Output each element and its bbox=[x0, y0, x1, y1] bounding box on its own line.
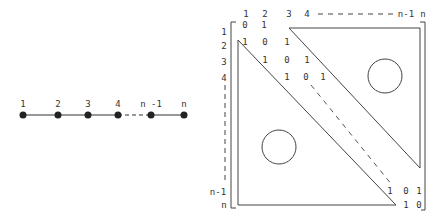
row-label: n bbox=[221, 201, 226, 210]
matrix-entry: 1 bbox=[416, 187, 421, 196]
graph-node bbox=[115, 112, 122, 119]
path-graph bbox=[20, 112, 188, 119]
matrix-entry: 1 bbox=[284, 38, 289, 47]
left-bracket bbox=[231, 22, 236, 208]
node-label: 1 bbox=[20, 100, 25, 109]
matrix-entry: 1 bbox=[242, 38, 247, 47]
matrix-entry: 0 bbox=[303, 73, 308, 82]
adjacency-matrix bbox=[225, 14, 425, 210]
node-label: 4 bbox=[115, 100, 120, 109]
graph-node bbox=[20, 112, 27, 119]
matrix-entry: 0 bbox=[403, 187, 408, 196]
upper-zero-circle bbox=[368, 59, 402, 93]
graph-node bbox=[148, 112, 155, 119]
matrix-entry: 1 bbox=[304, 56, 309, 65]
right-bracket bbox=[420, 22, 425, 210]
matrix-entry: 1 bbox=[403, 201, 408, 210]
column-label: 4 bbox=[304, 10, 309, 19]
row-label: n-1 bbox=[210, 188, 226, 197]
matrix-entry: 0 bbox=[242, 21, 247, 30]
matrix-entry: 0 bbox=[284, 56, 289, 65]
lower-zero-circle bbox=[262, 130, 296, 164]
row-label: 3 bbox=[221, 58, 226, 67]
node-label: n -1 bbox=[140, 100, 162, 109]
column-label: 1 bbox=[243, 10, 248, 19]
matrix-entry: 1 bbox=[320, 73, 325, 82]
row-label: 2 bbox=[221, 42, 226, 51]
matrix-entry: 1 bbox=[387, 187, 392, 196]
column-label: n-1 bbox=[398, 10, 414, 19]
graph-node bbox=[181, 112, 188, 119]
matrix-entry: 1 bbox=[284, 73, 289, 82]
matrix-entry: 0 bbox=[262, 38, 267, 47]
matrix-entry: 0 bbox=[416, 201, 421, 210]
node-label: n bbox=[181, 100, 186, 109]
column-label: 2 bbox=[262, 10, 267, 19]
row-label: 1 bbox=[221, 28, 226, 37]
column-label: 3 bbox=[286, 10, 291, 19]
graph-node bbox=[55, 112, 62, 119]
upper-zero-triangle bbox=[289, 28, 420, 168]
graph-node bbox=[85, 112, 92, 119]
column-label: n bbox=[420, 10, 425, 19]
diagonal-dash bbox=[311, 85, 392, 185]
matrix-entry: 1 bbox=[262, 56, 267, 65]
node-label: 3 bbox=[85, 100, 90, 109]
row-label: 4 bbox=[221, 74, 226, 83]
node-label: 2 bbox=[55, 100, 60, 109]
matrix-entry: 1 bbox=[261, 21, 266, 30]
